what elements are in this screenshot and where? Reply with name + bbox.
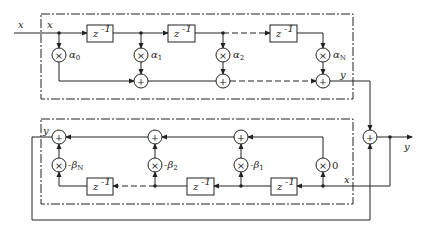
coef-alpha-0: α0 <box>69 49 80 62</box>
svg-text:z: z <box>173 28 180 39</box>
svg-text:-1: -1 <box>285 176 295 187</box>
multiplier-beta-n: × <box>52 158 66 172</box>
svg-text:×: × <box>237 160 245 171</box>
svg-text:-1: -1 <box>182 23 192 34</box>
svg-text:×: × <box>319 160 327 171</box>
svg-text:×: × <box>219 50 227 61</box>
svg-text:z: z <box>275 28 282 39</box>
coef-beta-n: -βN <box>68 159 83 172</box>
svg-text:×: × <box>137 50 145 61</box>
coef-alpha-2: α2 <box>233 49 244 62</box>
coef-beta-2: -β2 <box>164 159 178 172</box>
svg-text:×: × <box>151 160 159 171</box>
svg-text:z: z <box>92 28 99 39</box>
multiplier-zero: × <box>316 158 330 172</box>
coef-beta-1: -β1 <box>250 159 264 172</box>
svg-text:×: × <box>55 50 63 61</box>
svg-text:+: + <box>219 76 227 87</box>
svg-text:+: + <box>151 132 159 143</box>
svg-text:z: z <box>276 181 283 192</box>
delay-block-top-2: z-1 <box>168 23 195 42</box>
adder-bottom-1: + <box>234 130 248 144</box>
delay-block-bottom-n: z-1 <box>87 176 113 195</box>
svg-text:×: × <box>319 50 327 61</box>
multiplier-alpha-2: × <box>216 48 230 62</box>
delay-block-bottom-2: z-1 <box>187 176 214 195</box>
label-bottom-y: y <box>42 125 49 136</box>
coef-zero: 0 <box>332 160 338 171</box>
svg-text:-1: -1 <box>284 23 294 34</box>
label-top-x: x <box>47 19 53 30</box>
adder-bottom-2: + <box>148 130 162 144</box>
coef-alpha-n: αN <box>333 49 346 62</box>
svg-text:+: + <box>366 132 374 143</box>
delay-block-top-n: z-1 <box>270 23 297 42</box>
svg-text:-1: -1 <box>101 23 111 34</box>
delay-block-bottom-1: z-1 <box>271 176 297 195</box>
label-top-y: y <box>339 69 346 80</box>
delay-block-top-1: z-1 <box>87 23 113 42</box>
adder-top-1: + <box>134 74 148 88</box>
svg-text:z: z <box>92 181 99 192</box>
multiplier-alpha-0: × <box>52 48 66 62</box>
svg-text:z: z <box>192 181 199 192</box>
svg-text:-1: -1 <box>201 176 211 187</box>
svg-text:×: × <box>55 160 63 171</box>
adder-top-2: + <box>216 74 230 88</box>
adder-bottom-n: + <box>52 130 66 144</box>
multiplier-beta-1: × <box>234 158 248 172</box>
multiplier-alpha-1: × <box>134 48 148 62</box>
svg-text:+: + <box>237 132 245 143</box>
svg-text:+: + <box>137 76 145 87</box>
multiplier-alpha-n: × <box>316 48 330 62</box>
label-input-x: x <box>18 19 24 30</box>
adder-top-n: + <box>316 74 330 88</box>
iir-filter-diagram: z-1 z-1 z-1 z-1 z-1 z-1 × × × × + + + + … <box>0 0 430 233</box>
svg-text:+: + <box>319 76 327 87</box>
label-bottom-x: x <box>344 174 350 185</box>
multiplier-beta-2: × <box>148 158 162 172</box>
svg-text:+: + <box>55 132 63 143</box>
svg-text:-1: -1 <box>101 176 111 187</box>
label-output-y: y <box>403 141 410 152</box>
adder-output: + <box>363 130 377 144</box>
coef-alpha-1: α1 <box>151 49 162 62</box>
